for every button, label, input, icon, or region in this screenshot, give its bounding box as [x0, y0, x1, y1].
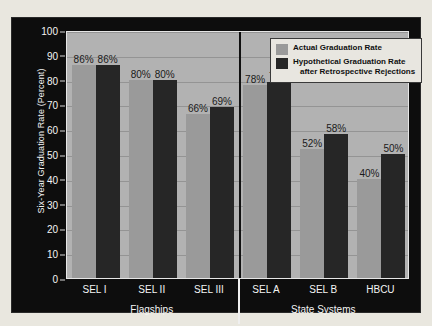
- bar: [300, 149, 324, 278]
- y-tick-label: 30: [47, 199, 58, 210]
- bar-value-label: 40%: [359, 168, 379, 179]
- bar: [357, 179, 381, 278]
- group-label-flagships: Flagships: [130, 304, 173, 315]
- bar-value-label: 78%: [245, 74, 265, 85]
- chart-legend: Actual Graduation Rate Hypothetical Grad…: [270, 38, 422, 83]
- x-axis-label-sel-i: SEL I: [83, 284, 107, 295]
- legend-item-hypothetical: Hypothetical Graduation Rate after Retro…: [276, 57, 416, 77]
- legend-label-actual: Actual Graduation Rate: [293, 43, 382, 53]
- bar-value-label: 50%: [383, 143, 403, 154]
- y-tick-label: 20: [47, 224, 58, 235]
- y-tick-label: 90: [47, 50, 58, 61]
- legend-item-actual: Actual Graduation Rate: [276, 43, 416, 55]
- bar: [153, 80, 177, 278]
- bar: [72, 65, 96, 278]
- x-axis-label-hbcu: HBCU: [366, 284, 394, 295]
- legend-label-hypothetical: Hypothetical Graduation Rate after Retro…: [293, 57, 415, 77]
- legend-label-hypothetical-line2: after Retrospective Rejections: [293, 67, 415, 77]
- y-tick-label: 100: [41, 26, 58, 37]
- legend-label-hypothetical-line1: Hypothetical Graduation Rate: [293, 57, 405, 66]
- bar-value-label: 69%: [212, 96, 232, 107]
- bar: [381, 154, 405, 278]
- y-tick-label: 50: [47, 150, 58, 161]
- group-divider-line: [239, 31, 241, 279]
- bar-value-label: 52%: [302, 138, 322, 149]
- bar-value-label: 66%: [188, 103, 208, 114]
- x-axis-label-sel-b: SEL B: [309, 284, 337, 295]
- bar: [267, 82, 291, 278]
- bar: [186, 114, 210, 278]
- group-divider-line-extension: [238, 279, 240, 324]
- y-tick-label: 40: [47, 174, 58, 185]
- y-tick-label: 10: [47, 249, 58, 260]
- bar: [324, 134, 348, 278]
- x-axis-label-sel-ii: SEL II: [138, 284, 165, 295]
- bar-value-label: 86%: [74, 54, 94, 65]
- y-tick-label: 60: [47, 125, 58, 136]
- bar-value-label: 58%: [326, 123, 346, 134]
- legend-swatch-hypothetical-icon: [276, 58, 288, 69]
- bar: [243, 85, 267, 278]
- y-tick-label: 0: [52, 274, 58, 285]
- y-tick-label: 80: [47, 75, 58, 86]
- group-label-state-systems: State Systems: [291, 304, 355, 315]
- x-axis-label-sel-a: SEL A: [252, 284, 279, 295]
- bar-value-label: 86%: [98, 54, 118, 65]
- bar-value-label: 80%: [131, 69, 151, 80]
- chart-panel: Six-Year Graduation Rate (Percent) 10090…: [12, 18, 420, 312]
- bar: [129, 80, 153, 278]
- chart-screenshot: Six-Year Graduation Rate (Percent) 10090…: [0, 0, 432, 326]
- bar-value-label: 80%: [155, 69, 175, 80]
- bar: [96, 65, 120, 278]
- y-tick-label: 70: [47, 100, 58, 111]
- x-axis-label-sel-iii: SEL III: [194, 284, 224, 295]
- y-axis-tick-labels: 1009080706050403020100: [26, 31, 66, 279]
- bar: [210, 107, 234, 278]
- legend-swatch-actual-icon: [276, 44, 288, 55]
